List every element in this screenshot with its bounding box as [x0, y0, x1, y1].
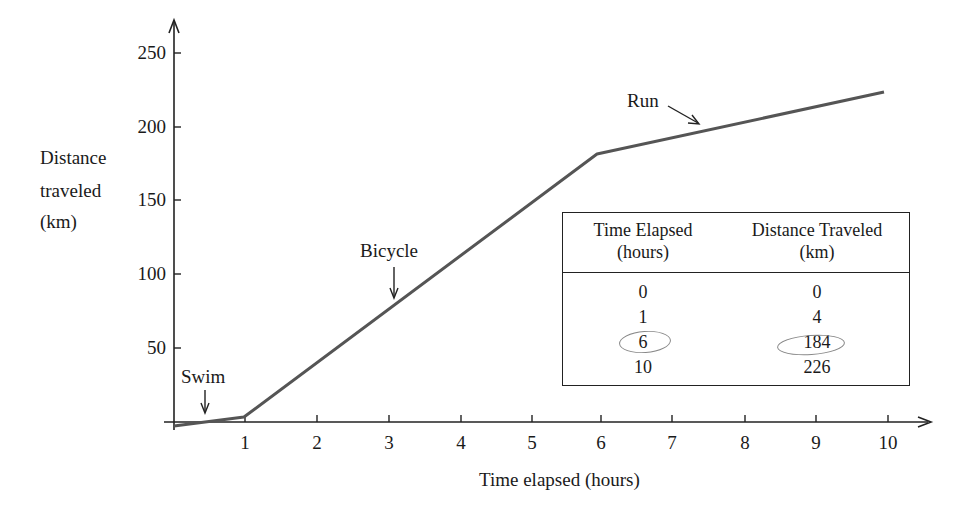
y-tick-250: 250: [106, 42, 166, 64]
table-cell-time: 1: [563, 306, 723, 329]
header-distance-line2: (km): [723, 241, 911, 263]
inset-table: Time Elapsed (hours) Distance Traveled (…: [562, 212, 910, 386]
y-tick-150: 150: [106, 189, 166, 211]
table-header: Time Elapsed (hours) Distance Traveled (…: [563, 213, 909, 273]
x-tick-5: 5: [517, 432, 547, 454]
x-tick-4: 4: [446, 432, 476, 454]
x-tick-6: 6: [586, 432, 616, 454]
run-label: Run: [627, 90, 659, 112]
x-tick-9: 9: [801, 432, 831, 454]
x-tick-3: 3: [374, 432, 404, 454]
run-arrow-icon: [668, 106, 699, 124]
y-tick-50: 50: [106, 337, 166, 359]
header-time-line2: (hours): [563, 241, 723, 263]
table-cell-time: 0: [563, 281, 723, 304]
y-tick-200: 200: [106, 116, 166, 138]
table-cell-distance: 226: [723, 356, 911, 379]
x-tick-7: 7: [657, 432, 687, 454]
swim-arrow-icon: [201, 390, 209, 413]
y-axis-label-line2: traveled: [40, 180, 101, 202]
y-tick-100: 100: [106, 263, 166, 285]
swim-label: Swim: [181, 366, 225, 388]
bicycle-label: Bicycle: [360, 240, 418, 262]
y-axis-label-line3: (km): [40, 211, 77, 233]
header-distance-line1: Distance Traveled: [723, 219, 911, 241]
table-header-distance: Distance Traveled (km): [723, 219, 911, 263]
bicycle-arrow-icon: [390, 267, 398, 298]
table-cell-distance: 0: [723, 281, 911, 304]
x-axis-label: Time elapsed (hours): [479, 469, 640, 491]
x-tick-8: 8: [730, 432, 760, 454]
y-ticks: [174, 53, 181, 348]
header-time-line1: Time Elapsed: [563, 219, 723, 241]
y-axis-label-line1: Distance: [40, 147, 106, 169]
x-tick-1: 1: [230, 432, 260, 454]
x-tick-10: 10: [873, 432, 903, 454]
table-header-time: Time Elapsed (hours): [563, 219, 723, 263]
x-tick-2: 2: [302, 432, 332, 454]
table-cell-time: 10: [563, 356, 723, 379]
x-ticks: [245, 415, 888, 422]
table-cell-distance: 4: [723, 306, 911, 329]
